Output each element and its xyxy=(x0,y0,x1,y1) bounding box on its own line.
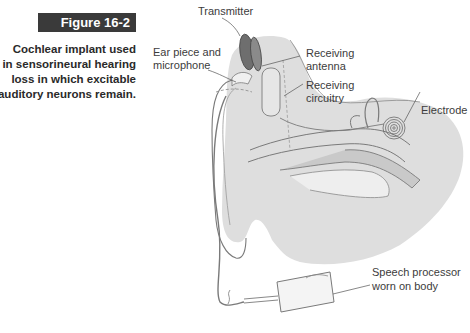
label-receiving-antenna-line1: Receiving xyxy=(306,47,354,60)
label-receiving-circuitry-line1: Receiving xyxy=(306,79,354,92)
label-speech-processor-line2: worn on body xyxy=(372,280,438,293)
label-electrode: Electrode xyxy=(421,104,467,117)
label-ear-piece-line2: microphone xyxy=(153,59,210,72)
label-ear-piece-line1: Ear piece and xyxy=(153,46,221,59)
speech-processor-device xyxy=(277,272,334,312)
label-receiving-circuitry-line2: circuitry xyxy=(306,92,344,105)
label-transmitter: Transmitter xyxy=(198,5,253,18)
label-receiving-antenna-line2: antenna xyxy=(306,60,346,73)
label-speech-processor-line1: Speech processor xyxy=(372,266,461,279)
